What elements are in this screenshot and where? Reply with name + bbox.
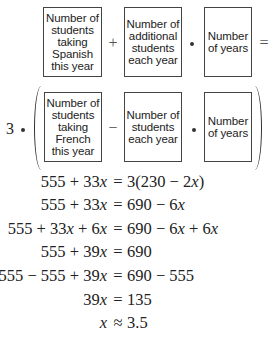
multiply-dot-icon [190, 42, 194, 46]
equation-lhs: 555 + 33x [41, 172, 107, 192]
additional-students-box: Number of additional students each year [124, 7, 182, 77]
multiply-dot-icon [21, 128, 25, 132]
equation-lhs: x [100, 313, 107, 333]
equation-step-2: 555 + 33x = 690 − 6x [0, 195, 274, 217]
equation-relation: = [110, 195, 126, 215]
equation-relation: ≈ [110, 313, 126, 333]
equation-rhs: 690 − 6x + 6x [127, 219, 218, 239]
equation-rhs: 3(230 − 2x) [127, 172, 204, 192]
equation-lhs: 555 − 555 + 39x [0, 266, 107, 286]
plus-operator: + [108, 34, 117, 52]
minus-operator: − [108, 119, 117, 137]
equation-rhs: 690 [127, 242, 152, 262]
years-box-row2: Number of years [204, 92, 252, 162]
equation-step-1: 555 + 33x = 3(230 − 2x) [0, 172, 274, 194]
french-students-box: Number of students taking French this ye… [44, 92, 102, 162]
equation-rhs: 3.5 [127, 313, 148, 333]
right-parenthesis [250, 86, 262, 170]
spanish-students-box: Number of students taking Spanish this y… [43, 7, 102, 77]
students-each-year-box: Number of students each year [124, 92, 182, 162]
equation-lhs: 555 + 39x [41, 242, 107, 262]
equation-rhs: 135 [127, 290, 152, 310]
equation-rhs: 690 − 555 [127, 266, 194, 286]
equals-operator: = [259, 34, 268, 52]
equation-step-4: 555 + 39x = 690 [0, 242, 274, 264]
equation-lhs: 39x [83, 290, 107, 310]
years-box-row1: Number of years [204, 7, 252, 77]
equation-lhs: 555 + 33x + 6x [8, 219, 107, 239]
equation-relation: = [110, 219, 126, 239]
equation-lhs: 555 + 33x [41, 195, 107, 215]
equation-step-3: 555 + 33x + 6x = 690 − 6x + 6x [0, 219, 274, 241]
equation-step-7: x ≈ 3.5 [0, 313, 274, 335]
multiply-dot-icon [192, 128, 196, 132]
equation-step-6: 39x = 135 [0, 290, 274, 312]
equation-step-5: 555 − 555 + 39x = 690 − 555 [0, 266, 274, 288]
equation-relation: = [110, 290, 126, 310]
equation-relation: = [110, 266, 126, 286]
equation-relation: = [110, 172, 126, 192]
equation-relation: = [110, 242, 126, 262]
coefficient-three: 3 [6, 120, 14, 138]
equation-rhs: 690 − 6x [127, 195, 185, 215]
